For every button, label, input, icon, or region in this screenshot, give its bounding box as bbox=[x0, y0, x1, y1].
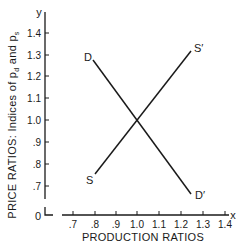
supply-start-label: S bbox=[86, 174, 93, 186]
x-tick-label: 1.1 bbox=[152, 219, 166, 230]
x-tick-label: .8 bbox=[91, 219, 100, 230]
x-tick-label: .7 bbox=[69, 219, 78, 230]
y-axis-title: PRICE RATIOS: Indices of pd and ps bbox=[6, 31, 20, 219]
y-tick-label: 1.3 bbox=[27, 50, 41, 61]
y-axis-title-prefix: PRICE RATIOS: Indices of p bbox=[6, 72, 18, 219]
y-axis-title-sub-s: s bbox=[13, 31, 20, 35]
x-tick-label: 1.0 bbox=[130, 219, 144, 230]
y-axis-title-mid: and p bbox=[6, 35, 18, 67]
y-tick-label: .9 bbox=[33, 137, 42, 148]
demand-start-label: D bbox=[84, 51, 92, 63]
x-axis-title: PRODUCTION RATIOS bbox=[82, 231, 204, 243]
y-tick-label: 1.0 bbox=[27, 115, 41, 126]
demand-end-label: D′ bbox=[195, 189, 205, 201]
origin-label: 0 bbox=[35, 210, 41, 222]
x-tick-label: 1.3 bbox=[196, 219, 210, 230]
demand-line bbox=[93, 60, 191, 194]
y-tick-label: 1.1 bbox=[27, 93, 41, 104]
x-tick-label: 1.2 bbox=[174, 219, 188, 230]
supply-line bbox=[95, 51, 191, 174]
y-tick-label: .7 bbox=[33, 181, 42, 192]
chart: 1.4 1.3 1.2 1.1 1.0 .9 .8 .7 .7 .8 .9 1.… bbox=[0, 0, 238, 246]
y-axis-letter: y bbox=[36, 6, 42, 18]
y-tick-label: 1.4 bbox=[27, 28, 41, 39]
y-tick-label: 1.2 bbox=[27, 71, 41, 82]
axis-break-corner bbox=[45, 207, 53, 215]
x-tick-labels: .7 .8 .9 1.0 1.1 1.2 1.3 1.4 bbox=[69, 219, 233, 230]
x-tick-label: .9 bbox=[112, 219, 121, 230]
supply-end-label: S′ bbox=[194, 42, 203, 54]
x-axis-letter: x bbox=[230, 209, 236, 221]
y-tick-labels: 1.4 1.3 1.2 1.1 1.0 .9 .8 .7 bbox=[27, 28, 41, 192]
y-tick-label: .8 bbox=[33, 159, 42, 170]
